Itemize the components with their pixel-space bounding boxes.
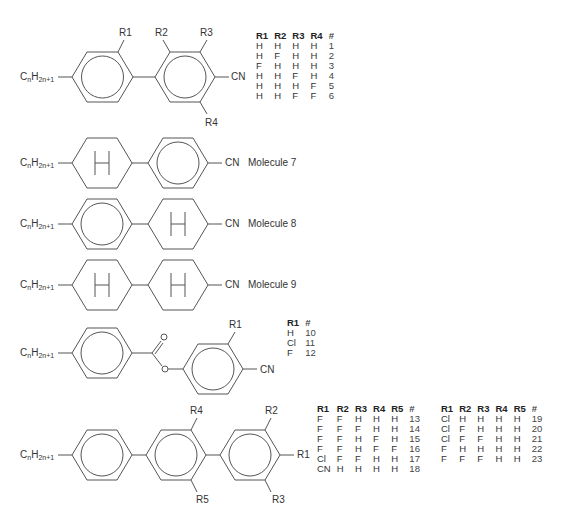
substituent-value: H: [274, 91, 292, 101]
table-row: HHFF6: [256, 91, 340, 101]
molecule-1-6-structure: [58, 40, 229, 114]
substituent-table-1-6: R1 R2 R3 R4 # HHHH1HFHH2FHHH3HHFH4HHHF5H…: [256, 31, 340, 101]
substituent-value: H: [495, 454, 513, 464]
substituent-r3-label: R3: [200, 28, 213, 38]
substituent-value: H: [337, 464, 355, 474]
table-row: F12: [287, 348, 322, 358]
alkyl-chain-label: CnH2n+1: [20, 71, 54, 83]
substituent-r3-label: R3: [272, 495, 285, 505]
substituent-table-13-18: R1 R2 R3 R4 R5 # FFHHH13FFFHH14FFHFH15FF…: [317, 404, 426, 474]
substituent-value: F: [477, 454, 495, 464]
cyano-group-label: CN: [225, 280, 239, 290]
substituent-table-19-23: R1 R2 R3 R4 R5 # ClHHHH19ClFHHH20ClFFHH2…: [441, 404, 548, 464]
compound-number: 23: [532, 454, 549, 464]
substituent-r4-label: R4: [205, 118, 218, 128]
substituent-value: H: [355, 464, 373, 474]
molecule-8-name: Molecule 8: [248, 219, 296, 229]
substituent-value: F: [459, 454, 477, 464]
cyano-group-label: CN: [225, 219, 239, 229]
substituent-r2-label: R2: [155, 28, 168, 38]
cyano-group-label: CN: [260, 365, 274, 375]
alkyl-chain-label: CnH2n+1: [20, 449, 54, 461]
substituent-value: H: [514, 454, 532, 464]
substituent-r2-label: R2: [265, 406, 278, 416]
substituent-r1-label: R1: [229, 320, 242, 330]
molecule-13-23-structure: [58, 418, 294, 492]
substituent-value: H: [391, 464, 409, 474]
substituent-value: H: [373, 464, 391, 474]
substituent-value: F: [441, 454, 459, 464]
molecule-8-structure: [58, 199, 222, 249]
molecule-9-structure: [58, 260, 222, 310]
substituent-table-10-12: R1 # H10Cl11F12: [287, 318, 322, 358]
alkyl-chain-label: CnH2n+1: [20, 157, 54, 169]
substituent-value: F: [310, 91, 328, 101]
alkyl-chain-label: CnH2n+1: [20, 279, 54, 291]
substituent-r4-label: R4: [190, 406, 203, 416]
compound-number: 6: [329, 91, 340, 101]
compound-number: 12: [305, 348, 322, 358]
table-row: CNHHHH18: [317, 464, 426, 474]
substituent-r1-label: R1: [297, 450, 310, 460]
substituent-value: F: [292, 91, 310, 101]
molecule-7-name: Molecule 7: [248, 158, 296, 168]
alkyl-chain-label: CnH2n+1: [20, 347, 54, 359]
compound-number: 18: [409, 464, 426, 474]
alkyl-chain-label: CnH2n+1: [20, 218, 54, 230]
substituent-r5-label: R5: [196, 495, 209, 505]
substituent-value: H: [256, 91, 274, 101]
table-row: FFFHH23: [441, 454, 548, 464]
molecule-10-12-structure: [58, 328, 257, 394]
molecule-9-name: Molecule 9: [248, 280, 296, 290]
molecule-7-structure: [58, 138, 222, 188]
substituent-value: CN: [317, 464, 337, 474]
substituent-value: F: [287, 348, 305, 358]
cyano-group-label: CN: [225, 158, 239, 168]
substituent-r1-label: R1: [119, 28, 132, 38]
cyano-group-label: CN: [231, 72, 245, 82]
